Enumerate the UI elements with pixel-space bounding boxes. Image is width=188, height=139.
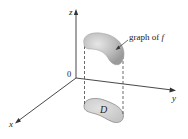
origin-label: 0 (67, 69, 71, 79)
diagram-canvas: z y x 0 graph of f D (0, 0, 188, 139)
surface-label: graph of f (129, 32, 166, 42)
y-axis-label: y (171, 93, 176, 103)
x-arrow-icon (15, 118, 21, 124)
y-arrow-icon (169, 88, 176, 93)
surface-label-prefix: graph of (129, 32, 162, 42)
z-axis-label: z (68, 7, 73, 17)
domain-label: D (99, 104, 108, 115)
z-arrow-icon (74, 9, 78, 15)
x-axis (18, 78, 76, 121)
surface-label-function: f (162, 32, 166, 42)
x-axis-label: x (8, 119, 13, 129)
y-axis (76, 78, 172, 90)
